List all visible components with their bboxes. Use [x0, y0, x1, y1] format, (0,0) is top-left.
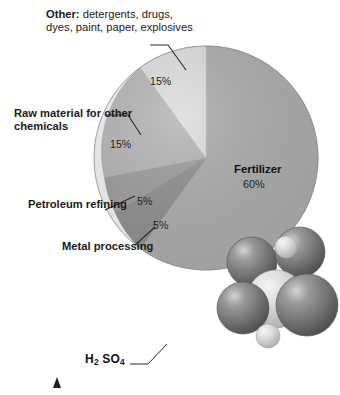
value-metal-processing: 5%: [153, 219, 168, 231]
molecule-sphere-oxygen-right: [276, 274, 338, 336]
value-raw-material: 15%: [110, 138, 131, 150]
label-petroleum-refining: Petroleum refining: [28, 198, 138, 211]
leader-line-h2so4: [130, 344, 167, 364]
label-raw-material: Raw material for other chemicals: [14, 107, 134, 133]
sulfuric-acid-molecule: [217, 227, 338, 348]
value-petroleum-refining: 5%: [137, 195, 152, 207]
formula-h2so4: H2 SO4: [85, 352, 125, 366]
figure-canvas: Other: detergents, drugs, dyes, paint, p…: [0, 0, 340, 395]
bottom-triangle-marker: [53, 377, 61, 388]
label-fertilizer: Fertilizer: [234, 163, 281, 175]
value-other: 15%: [150, 75, 171, 87]
molecule-sphere-hydrogen-a: [256, 324, 280, 348]
label-metal-processing: Metal processing: [62, 240, 172, 253]
molecule-sphere-hydrogen-b: [275, 236, 297, 258]
label-other-head: Other:: [46, 8, 80, 20]
label-other: Other: detergents, drugs, dyes, paint, p…: [46, 8, 196, 34]
value-fertilizer: 60%: [243, 178, 265, 190]
